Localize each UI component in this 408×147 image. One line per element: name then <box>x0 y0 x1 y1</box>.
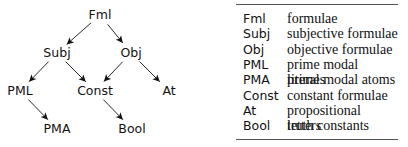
legend-row: Subj subjective formulae <box>236 26 398 41</box>
legend-abbr: Const <box>243 88 279 103</box>
legend-abbr: PML <box>243 57 268 72</box>
node-subj: Subj <box>43 47 70 60</box>
edge-arrow <box>67 23 91 45</box>
edge-arrow <box>103 100 123 120</box>
node-pma: PMA <box>44 123 71 136</box>
top-rule <box>236 4 398 5</box>
node-at: At <box>162 85 175 98</box>
edge-arrow <box>66 62 86 82</box>
legend-desc: objective formulae <box>287 42 392 57</box>
legend-row: PML prime modal literals <box>236 57 398 72</box>
edge-arrow <box>108 24 123 43</box>
edge-arrow <box>28 100 48 120</box>
legend-desc: constant formulae <box>287 88 388 103</box>
legend-desc: formulae <box>287 11 338 26</box>
edge-arrows <box>0 0 210 147</box>
bottom-rule <box>236 139 398 140</box>
node-fml: Fml <box>89 9 112 22</box>
legend-desc: subjective formulae <box>287 26 398 41</box>
edge-arrow <box>104 62 123 82</box>
legend-desc: truth constants <box>287 118 369 133</box>
legend-abbr: Bool <box>243 118 270 133</box>
formula-hierarchy-diagram: Fml Subj Obj PML Const At PMA Bool <box>0 0 210 147</box>
legend-abbr: Subj <box>243 26 270 41</box>
node-bool: Bool <box>118 123 145 136</box>
legend-abbr: PMA <box>243 72 270 87</box>
legend-row: PMA prime modal atoms <box>236 72 398 87</box>
edge-arrow <box>140 62 160 82</box>
legend-row: Fml formulae <box>236 11 398 26</box>
legend-row: At propositional letters <box>236 103 398 118</box>
node-obj: Obj <box>120 47 141 60</box>
legend-desc: prime modal atoms <box>287 72 395 87</box>
legend-row: Bool truth constants <box>236 118 398 133</box>
node-const: Const <box>77 85 113 98</box>
legend-abbr: Fml <box>243 11 266 26</box>
legend-abbr: Obj <box>243 42 264 57</box>
legend-row: Obj objective formulae <box>236 42 398 57</box>
legend-abbr: At <box>243 103 256 118</box>
edge-arrow <box>29 62 48 82</box>
legend-row: Const constant formulae <box>236 88 398 103</box>
node-pml: PML <box>7 85 32 98</box>
